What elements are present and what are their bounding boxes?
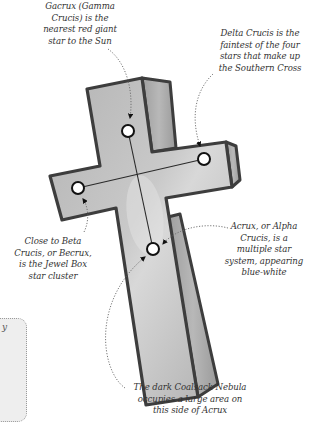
clipped-side-panel: y — [0, 318, 27, 422]
label-coalsack: The dark Coalsack Nebula occupies a larg… — [120, 382, 260, 417]
label-gacrux: Gacrux (Gamma Crucis) is the nearest red… — [22, 1, 138, 47]
star-acrux — [147, 243, 159, 255]
star-becrux — [72, 182, 84, 194]
side-panel-text: y — [2, 322, 7, 332]
label-becrux: Close to Beta Crucis, or Becrux, is the … — [8, 236, 98, 282]
label-delta-crucis: Delta Crucis is the faintest of the four… — [210, 28, 310, 74]
star-delta-crucis — [198, 153, 210, 165]
label-acrux: Acrux, or Alpha Crucis, is a multiple st… — [220, 221, 308, 279]
star-gacrux — [122, 125, 134, 137]
